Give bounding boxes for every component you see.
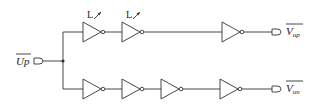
input-port-up <box>34 58 43 64</box>
output-label-vun: Vun <box>286 82 300 96</box>
adjust-label-1: L <box>87 9 93 20</box>
inverter-bottom-2 <box>122 79 140 99</box>
output-label-vup: Vup <box>286 25 300 39</box>
inverter-bottom-4 <box>220 79 238 99</box>
adjust-label-2: L <box>126 9 132 20</box>
junction-dot <box>61 59 64 62</box>
inverter-bottom-1 <box>83 79 101 99</box>
input-label: Up <box>16 55 30 67</box>
output-port-vup <box>272 29 281 35</box>
inverter-chain-diagram: L L Up Vup Vun <box>0 0 317 109</box>
inverter-bottom-3 <box>161 79 179 99</box>
inverter-top-2 <box>122 22 140 42</box>
output-port-vun <box>272 86 281 92</box>
inverter-top-1 <box>83 22 101 42</box>
inverter-top-3 <box>222 22 240 42</box>
